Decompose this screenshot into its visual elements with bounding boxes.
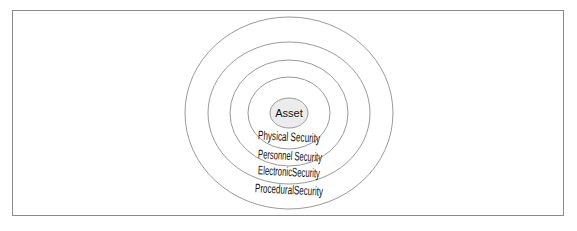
asset-label: Asset <box>275 107 303 119</box>
layer-label-electronic-security: ElectronicSecurity <box>258 163 321 180</box>
concentric-security-diagram: Asset Physical Security Personnel Securi… <box>0 0 577 231</box>
layer-label-procedural-security: ProceduralSecurity <box>255 181 324 199</box>
